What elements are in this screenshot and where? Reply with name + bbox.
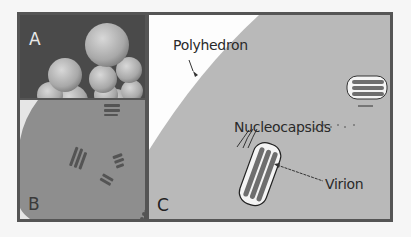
panel-label-b: B [28, 196, 40, 213]
panel-a: A [20, 15, 145, 98]
polyhedron-label: Polyhedron [173, 37, 248, 53]
panel-c: Polyhedron Nucleocapsids Virion C [149, 15, 390, 219]
panel-label-a: A [29, 31, 41, 48]
virion-label: Virion [325, 176, 363, 192]
panel-label-c: C [157, 197, 169, 214]
panel-b: B [20, 100, 145, 219]
figure-frame: A [17, 12, 393, 222]
polyhedra-cluster-image [20, 15, 145, 98]
nucleocapsids-label: Nucleocapsids [234, 119, 331, 135]
